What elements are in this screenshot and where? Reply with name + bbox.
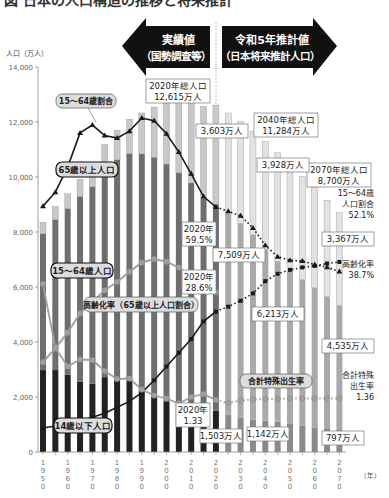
x-tick-label: 2020: [214, 459, 218, 491]
x-tick-label: 2010: [189, 459, 193, 491]
svg-text:2: 2: [164, 459, 168, 467]
ratio-2020-value: 59.5%: [185, 235, 212, 245]
aging-2020-value: 28.6%: [185, 283, 212, 293]
x-tick-label: 2050: [288, 459, 292, 491]
svg-text:0: 0: [115, 483, 119, 491]
svg-text:0: 0: [288, 483, 292, 491]
bar-1960: [65, 194, 71, 452]
svg-text:5: 5: [288, 475, 292, 483]
bar-1955: [52, 206, 58, 452]
y-tick-label: 8,000: [13, 229, 33, 237]
legend-pop1564: 15〜64歳人口: [51, 263, 113, 278]
svg-text:1: 1: [90, 459, 94, 467]
svg-text:0: 0: [214, 467, 218, 475]
svg-text:1: 1: [115, 459, 119, 467]
aging-2070-value: 38.7%: [349, 271, 375, 280]
population-chart: 図 日本の人口構造の推移と将来推計 実績値 （国勢調査等） 令和5年推計値 （日…: [0, 0, 389, 498]
svg-text:高齢化率（65歳以上人口割合）: 高齢化率（65歳以上人口割合）: [83, 300, 198, 310]
svg-text:1: 1: [41, 459, 45, 467]
bar-2060: [312, 188, 318, 452]
pop65-2020-value: 3,603万人: [201, 126, 243, 136]
ratio-2070-value: 52.1%: [349, 211, 375, 220]
svg-text:0: 0: [312, 483, 316, 491]
svg-text:0: 0: [189, 483, 193, 491]
x-tick-label: 1990: [140, 459, 144, 491]
svg-text:9: 9: [140, 475, 144, 483]
svg-text:2: 2: [312, 459, 316, 467]
projection-arrow-line2: （日本将来推計人口）: [220, 50, 320, 62]
total-2040-label: 2040年総人口: [257, 115, 315, 125]
ratio-2070-label1: 15〜64歳: [338, 188, 374, 198]
bar-2070: [336, 213, 342, 452]
svg-text:9: 9: [41, 467, 45, 475]
x-tick-label: 1970: [90, 459, 94, 491]
svg-text:0: 0: [263, 483, 267, 491]
svg-text:0: 0: [288, 467, 292, 475]
y-tick-label: 4,000: [13, 339, 33, 347]
svg-text:9: 9: [140, 467, 144, 475]
y-tick-label: 14,000: [9, 64, 34, 72]
svg-text:2: 2: [238, 459, 242, 467]
svg-text:0: 0: [238, 467, 242, 475]
bar-2040: [262, 142, 268, 452]
svg-text:0: 0: [214, 483, 218, 491]
svg-text:2: 2: [189, 459, 193, 467]
actual-arrow-line2: （国勢調査等）: [141, 50, 211, 62]
actual-arrow: 実績値 （国勢調査等）: [122, 18, 211, 76]
svg-text:0: 0: [238, 483, 242, 491]
svg-text:0: 0: [90, 483, 94, 491]
pop65-2070-value: 3,367万人: [327, 234, 369, 244]
tfr-2070-label1: 合計特殊: [342, 370, 374, 380]
y-tick-label: 6,000: [13, 284, 33, 292]
total-2070-value: 8,700万人: [318, 176, 360, 186]
svg-text:0: 0: [263, 467, 267, 475]
svg-text:9: 9: [90, 467, 94, 475]
y-tick-label: 2,000: [13, 394, 33, 402]
pop014-2040-value: 1,142万人: [247, 429, 289, 439]
tfr-2070-label2: 出生率: [350, 381, 374, 391]
ratio-2020-label: 2020年: [184, 224, 215, 234]
pop014-2070-value: 797万人: [326, 433, 360, 443]
aging-2020-label: 2020年: [184, 272, 215, 282]
bar-2045: [275, 153, 281, 452]
y-axis-unit: 人口（万人）: [6, 50, 48, 58]
chart-title: 図 日本の人口構造の推移と将来推計: [4, 0, 233, 8]
total-2020-label: 2020年総人口: [149, 81, 207, 91]
svg-text:0: 0: [65, 483, 69, 491]
svg-text:8: 8: [115, 475, 119, 483]
svg-text:14歳以下人口: 14歳以下人口: [55, 421, 112, 431]
ratio-2070-label2: 人口割合: [342, 199, 374, 209]
svg-text:7: 7: [337, 475, 341, 483]
legend-pop014: 14歳以下人口: [54, 418, 112, 433]
bar-1950: [40, 222, 46, 452]
svg-text:15〜64歳割合: 15〜64歳割合: [59, 96, 114, 106]
x-tick-label: 1960: [65, 459, 70, 491]
svg-text:3: 3: [238, 475, 242, 483]
svg-text:5: 5: [41, 475, 45, 483]
pop65-2040-value: 3,928万人: [262, 160, 304, 170]
svg-text:7: 7: [90, 475, 94, 483]
bar-1990: [139, 113, 145, 452]
svg-text:0: 0: [164, 483, 168, 491]
tfr-2020-label: 2020年: [178, 405, 209, 415]
tfr-2070-value: 1.36: [356, 393, 374, 402]
aging-2070-label: 高齢化率: [342, 259, 374, 269]
svg-text:6: 6: [312, 475, 317, 483]
legend-aging-rate: 高齢化率（65歳以上人口割合）: [83, 297, 198, 312]
svg-text:0: 0: [140, 483, 144, 491]
y-tick-label: 0: [29, 449, 33, 457]
pop1564-2070-value: 4,535万人: [327, 341, 369, 351]
legend-ratio1564: 15〜64歳割合: [56, 94, 116, 122]
x-tick-label: 2030: [238, 459, 242, 491]
x-tick-label: 2000: [164, 459, 168, 491]
svg-text:2: 2: [214, 459, 218, 467]
x-tick-label: 2070: [337, 459, 341, 491]
pop1564-2020-value: 7,509万人: [218, 250, 260, 260]
bar-1995: [151, 107, 157, 452]
svg-text:合計特殊出生率: 合計特殊出生率: [247, 376, 304, 386]
projection-arrow: 令和5年推計値 （日本将来推計人口）: [220, 18, 337, 76]
total-2040-value: 11,284万人: [262, 126, 310, 136]
total-2020-value: 12,615万人: [154, 92, 202, 102]
svg-text:9: 9: [115, 467, 119, 475]
pop014-2020-value: 1,503万人: [200, 431, 242, 441]
